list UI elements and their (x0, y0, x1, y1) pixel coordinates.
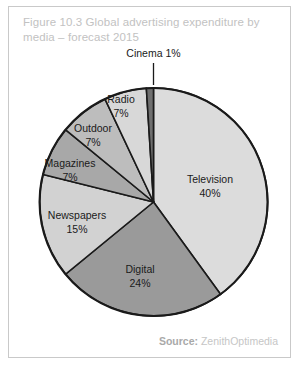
pie-label-digital-value: 24% (129, 277, 150, 289)
pie-label-outdoor-name: Outdoor (74, 122, 112, 134)
pie-label-magazines-value: 7% (62, 171, 77, 183)
pie-chart: Cinema 1% Television 40% Digital 24% (9, 7, 292, 359)
pie-label-digital-name: Digital (125, 263, 154, 275)
pie-label-radio-name: Radio (107, 93, 135, 105)
pie-label-outdoor-value: 7% (85, 136, 100, 148)
pie-label-radio-value: 7% (113, 107, 128, 119)
source-label: Source: (159, 335, 198, 347)
pie-label-cinema: Cinema 1% (126, 47, 180, 59)
pie-label-newspapers-name: Newspapers (48, 209, 106, 221)
pie-chart-svg: Cinema 1% Television 40% Digital 24% (9, 7, 292, 359)
source-value: ZenithOptimedia (201, 335, 278, 347)
pie-label-television-name: Television (187, 173, 233, 185)
pie-label-magazines-name: Magazines (45, 157, 96, 169)
source-note: Source: ZenithOptimedia (159, 335, 278, 347)
pie-label-newspapers-value: 15% (66, 223, 87, 235)
pie-label-television-value: 40% (199, 187, 220, 199)
figure-container: Figure 10.3 Global advertising expenditu… (8, 6, 291, 358)
